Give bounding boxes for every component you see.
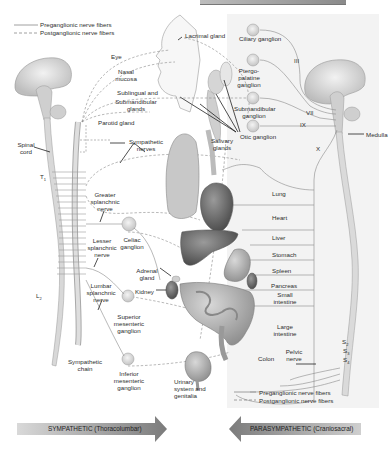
label-eye: Eye [111,53,122,60]
label-celiac-ganglion: Celiac ganglion [118,236,146,250]
label-urinary-genitalia: Urinary system and genitalia [174,378,208,399]
label-spinal-cord: Spinal cord [14,141,38,155]
label-spleen: Spleen [272,267,291,274]
legend-bottom-preganglionic: Preganglionic nerve fibers [259,389,331,396]
label-sublingual: Sublingual and [117,89,158,96]
label-t1: T1 [40,173,46,183]
label-liver: Liver [272,234,285,241]
label-greater-splanchnic: Greater splanchnic nerve [88,191,122,212]
label-heart: Heart [272,214,287,221]
label-lesser-splanchnic: Lesser splanchnic nerve [85,237,119,258]
label-otic-ganglion: Otic ganglion [240,133,276,140]
label-salivary-glands: Salivary glands [208,137,236,151]
label-cn9: IX [300,121,306,128]
label-submandibular-glands: Submandibular glands [114,98,158,112]
parasympathetic-arrow-label: PARASYMPATHETIC (Craniosacral) [250,425,353,432]
label-cn3: III [294,57,299,64]
label-large-intestine: Large intestine [270,323,300,337]
label-cn7: VII [306,109,314,116]
sympathetic-arrow-label: SYMPATHETIC (Thoracolumbar) [48,425,142,432]
label-stomach: Stomach [272,251,296,258]
legend-top-lines [14,25,38,33]
label-inferior-mesenteric: Inferior mesenteric ganglion [112,370,146,391]
label-cn10: X [316,145,320,152]
organs-art [166,130,257,390]
label-nasal-mucosa: Nasal mucosa [112,68,140,82]
label-ciliary-ganglion: Ciliary ganglion [239,35,281,42]
legend-bottom-postganglionic: Postganglionic nerve fibers [259,397,333,404]
label-parotid-gland: Parotid gland [98,119,134,126]
legend-top-preganglionic: Preganglionic nerve fibers [40,21,112,28]
label-sympathetic-chain: Sympathetic chain [66,358,104,372]
label-submandibular-ganglion: Submandibular ganglion [234,105,274,119]
label-small-intestine: Small intestine [270,291,300,305]
label-sympathetic-nerves: Sympathetic nerves [128,138,164,152]
label-kidney: Kidney [135,288,154,295]
label-colon: Colon [258,355,274,362]
label-pancreas: Pancreas [271,282,297,289]
label-medulla: Medulla [366,131,388,138]
legend-top-postganglionic: Postganglionic nerve fibers [40,29,114,36]
label-lacrimal-gland: Lacrimal gland [185,32,225,39]
label-adrenal-gland: Adrenal gland [134,267,160,281]
label-lung: Lung [272,190,286,197]
label-superior-mesenteric: Superior mesenteric ganglion [112,313,146,334]
label-l2: L2 [36,292,42,302]
label-pterygopalatine-ganglion: Ptergo- palatine ganglion [236,67,262,88]
label-lumbar-splanchnic: Lumbar splanchnic nerve [84,282,118,303]
label-s4: S4 [343,356,349,366]
sympathetic-brain-spinal-cord [15,58,72,366]
label-pelvic-nerve: Pelvic nerve [283,348,305,362]
